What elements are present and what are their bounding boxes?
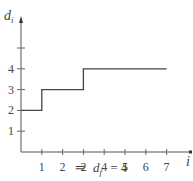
y-tick-label: 1 (8, 124, 14, 138)
y-axis-label: di (4, 8, 14, 25)
x-tick-label: 1 (39, 160, 45, 174)
x-tick-label: 6 (143, 160, 149, 174)
y-tick-label: 4 (8, 62, 14, 76)
y-tick-label: 2 (8, 103, 14, 117)
annotation-value: = 4 (107, 160, 127, 176)
implies-arrow: ⇒ (75, 160, 86, 176)
y-tick-label: 3 (8, 83, 14, 97)
y-axis-arrow-icon (19, 16, 23, 23)
annotation-var: df (93, 160, 102, 177)
x-axis-label: i (186, 154, 190, 169)
x-tick-label: 2 (60, 160, 66, 174)
step-chart: 1224567 1234 di i (0, 0, 193, 181)
x-tick-label: 7 (164, 160, 170, 174)
y-ticks: 1234 (8, 48, 25, 138)
x-ticks: 1224567 (39, 149, 170, 174)
step-series-line (21, 69, 167, 111)
